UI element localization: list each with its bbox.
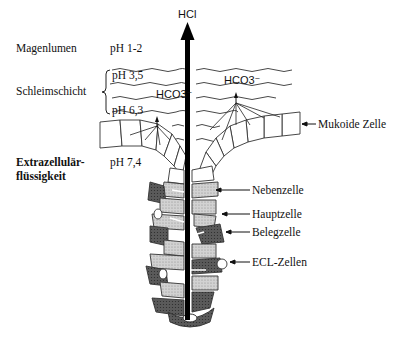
gland-cells-left (146, 168, 184, 316)
surface-epithelium-right (200, 112, 300, 174)
label-belegzelle: Belegzelle (252, 226, 301, 239)
ph-mucus-bottom: pH 6,3 (112, 104, 143, 117)
mucus-bracket (102, 70, 110, 114)
zone-label-extrazellular-1: Extrazellulär- (16, 156, 85, 169)
hco3-left-label: HCO3⁻ (156, 88, 192, 101)
gland-cells-right (192, 166, 224, 312)
label-hauptzelle: Hauptzelle (252, 208, 302, 221)
hco3-right-label: HCO3⁻ (224, 74, 260, 87)
ph-mucus-top: pH 3,5 (112, 69, 143, 82)
hcl-label: HCl (178, 8, 196, 21)
label-nebenzelle: Nebenzelle (252, 184, 304, 197)
ph-magenlumen: pH 1-2 (110, 42, 142, 55)
zone-label-magenlumen: Magenlumen (16, 42, 77, 55)
zone-label-extrazellular-2: flüssigkeit (16, 170, 66, 183)
label-mukoide-zelle: Mukoide Zelle (318, 118, 386, 131)
label-ecl-zellen: ECL-Zellen (252, 256, 307, 269)
zone-label-schleimschicht: Schleimschicht (16, 85, 86, 98)
ph-extrazellular: pH 7,4 (110, 156, 141, 169)
